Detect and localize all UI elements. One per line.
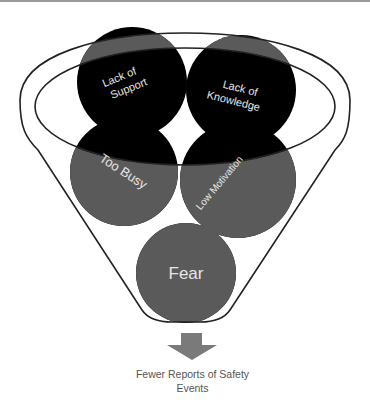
down-arrow-icon: [167, 333, 217, 360]
output-caption: Fewer Reports of Safety Events: [100, 367, 285, 395]
caption-line-1: Fewer Reports of Safety: [100, 367, 285, 381]
label-fear: Fear: [169, 264, 204, 283]
funnel-diagram: Lack of Support Lack of Knowledge Too Bu…: [0, 0, 370, 409]
caption-line-2: Events: [100, 381, 285, 395]
